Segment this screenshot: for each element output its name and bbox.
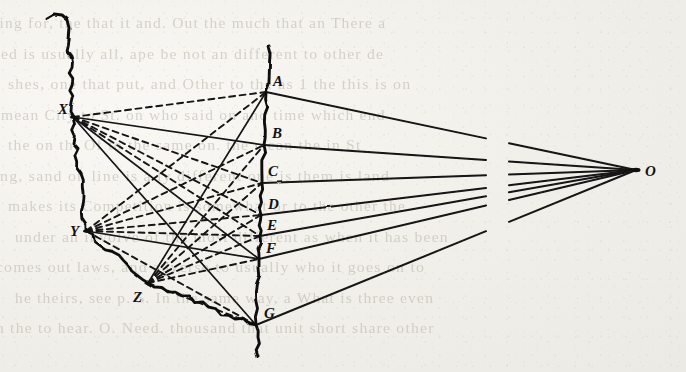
point-label-Z: Z <box>132 289 142 305</box>
dashed-ray-X-to-D <box>73 117 261 215</box>
point-label-B: B <box>271 125 282 141</box>
node-dot-O <box>632 168 641 172</box>
point-label-O: O <box>645 163 656 179</box>
solid-ray-G-to-O <box>256 231 486 325</box>
point-label-F: F <box>265 240 276 256</box>
point-label-D: D <box>267 196 279 212</box>
node-dot-Z <box>145 281 151 284</box>
node-dot-Y <box>83 229 89 232</box>
solid-ray-F-to-O <box>259 205 486 259</box>
point-label-Y: Y <box>70 223 81 239</box>
left-hook-curve <box>47 14 70 40</box>
solid-ray-A-to-O <box>266 92 486 138</box>
solid-ray-B-to-O <box>264 145 486 160</box>
projection-diagram: ABCDEFGXYZO <box>0 0 686 372</box>
left-curve-X-to-Y <box>72 117 86 231</box>
solid-ray-X-to-F <box>73 117 259 259</box>
node-dot-X <box>70 115 76 118</box>
point-label-E: E <box>266 217 277 233</box>
point-label-C: C <box>268 163 279 179</box>
solid-ray-C-to-O <box>262 175 486 183</box>
ray-layer <box>73 92 636 325</box>
point-label-G: G <box>264 305 275 321</box>
point-label-X: X <box>57 101 69 117</box>
hand-drawn-curve-layer <box>47 14 270 356</box>
point-label-A: A <box>272 73 283 89</box>
